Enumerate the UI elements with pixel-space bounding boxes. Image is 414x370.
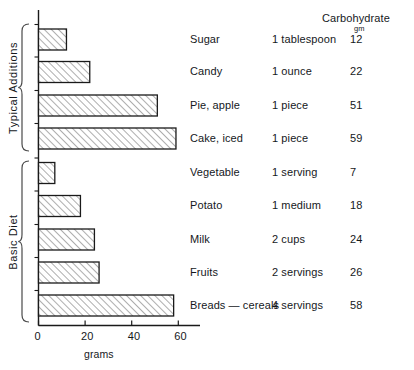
group-label-typical-additions: Typical Additions <box>7 42 19 134</box>
x-tick-label: 40 <box>128 330 140 342</box>
row-grams-value: 24 <box>350 233 362 245</box>
row-food-label: Potato <box>190 199 222 211</box>
brace-typical-additions <box>18 24 29 151</box>
row-food-label: Cake, iced <box>190 132 243 144</box>
row-serving-label: 1 serving <box>272 166 318 178</box>
row-serving-label: 1 piece <box>272 99 308 111</box>
row-grams-value: 18 <box>350 199 362 211</box>
row-food-label: Fruits <box>190 266 218 278</box>
row-serving-label: 2 servings <box>272 266 323 278</box>
bar <box>39 29 67 50</box>
row-food-label: Vegetable <box>190 166 240 178</box>
carbohydrate-bar-chart: Carbohydrate gm Sugar1 tablespoon12Candy… <box>0 0 414 370</box>
bar <box>39 295 174 316</box>
bar <box>39 128 176 149</box>
x-tick-label: 0 <box>35 330 41 342</box>
row-grams-value: 12 <box>350 33 362 45</box>
row-food-label: Milk <box>190 233 210 245</box>
row-grams-value: 51 <box>350 99 362 111</box>
row-food-label: Candy <box>190 65 222 77</box>
bar <box>39 62 90 83</box>
x-tick-label: 60 <box>174 330 186 342</box>
bars-group <box>39 29 176 316</box>
row-food-label: Sugar <box>190 33 220 45</box>
row-grams-value: 59 <box>350 132 362 144</box>
bar <box>39 95 158 116</box>
row-grams-value: 58 <box>350 299 362 311</box>
bar <box>39 262 100 283</box>
x-axis-ticks <box>39 321 179 326</box>
group-braces <box>18 24 29 322</box>
row-serving-label: 1 tablespoon <box>272 33 336 45</box>
x-tick-label: 20 <box>81 330 93 342</box>
bar <box>39 163 55 184</box>
row-serving-label: 2 cups <box>272 233 305 245</box>
row-serving-label: 1 ounce <box>272 65 312 77</box>
bar <box>39 196 81 217</box>
carbohydrate-header: Carbohydrate <box>322 12 390 24</box>
chart-canvas <box>0 0 414 370</box>
row-serving-label: 1 piece <box>272 132 308 144</box>
brace-basic-diet <box>18 161 29 322</box>
row-grams-value: 26 <box>350 266 362 278</box>
row-grams-value: 7 <box>350 166 356 178</box>
row-serving-label: 4 servings <box>272 299 323 311</box>
row-food-label: Breads — cereals <box>190 299 279 311</box>
row-food-label: Pie, apple <box>190 99 240 111</box>
row-serving-label: 1 medium <box>272 199 321 211</box>
bar <box>39 229 95 250</box>
row-grams-value: 22 <box>350 65 362 77</box>
group-label-basic-diet: Basic Diet <box>7 214 19 270</box>
x-axis-title: grams <box>84 348 114 360</box>
